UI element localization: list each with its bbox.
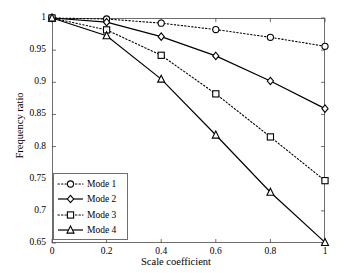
legend-marker bbox=[67, 196, 73, 203]
data-point-marker bbox=[267, 134, 273, 140]
series-line bbox=[52, 18, 325, 46]
legend-label: Mode 2 bbox=[87, 194, 116, 204]
legend-sample-triangle-icon bbox=[57, 223, 84, 237]
y-tick-label: 1 bbox=[0, 13, 46, 23]
legend-sample-square-icon bbox=[57, 208, 84, 222]
legend-item-3[interactable]: Mode 3 bbox=[54, 207, 127, 223]
legend-sample-circle-icon bbox=[57, 177, 84, 191]
data-point-marker bbox=[213, 52, 219, 59]
data-point-marker bbox=[213, 91, 219, 97]
data-point-marker bbox=[158, 52, 164, 58]
data-point-marker bbox=[322, 105, 328, 112]
data-point-marker bbox=[158, 20, 164, 26]
legend-sample-diamond-icon bbox=[57, 192, 84, 206]
y-axis-title: Frequency ratio bbox=[14, 51, 25, 201]
data-point-marker bbox=[322, 43, 328, 49]
data-point-marker bbox=[267, 34, 273, 40]
data-point-marker bbox=[158, 75, 165, 82]
legend-item-2[interactable]: Mode 2 bbox=[54, 192, 127, 208]
y-tick-label: 0.7 bbox=[0, 206, 46, 216]
chart-legend: Mode 1Mode 2Mode 3Mode 4 bbox=[53, 173, 128, 240]
chart-page: 0.650.70.750.80.850.90.951 00.20.40.60.8… bbox=[0, 0, 352, 273]
legend-label: Mode 3 bbox=[87, 210, 116, 220]
legend-marker bbox=[67, 181, 73, 187]
data-point-marker bbox=[322, 178, 328, 184]
legend-item-4[interactable]: Mode 4 bbox=[54, 223, 127, 239]
series-2 bbox=[49, 14, 328, 112]
x-axis-title: Scale coefficient bbox=[0, 256, 352, 267]
legend-item-1[interactable]: Mode 1 bbox=[54, 176, 127, 192]
series-line bbox=[52, 18, 325, 181]
data-point-marker bbox=[158, 33, 164, 40]
legend-label: Mode 4 bbox=[87, 225, 116, 235]
data-point-marker bbox=[267, 77, 273, 84]
y-tick-label: 0.65 bbox=[0, 238, 46, 248]
legend-marker bbox=[67, 212, 73, 218]
legend-label: Mode 1 bbox=[87, 179, 116, 189]
data-point-marker bbox=[213, 26, 219, 32]
series-1 bbox=[49, 15, 328, 49]
